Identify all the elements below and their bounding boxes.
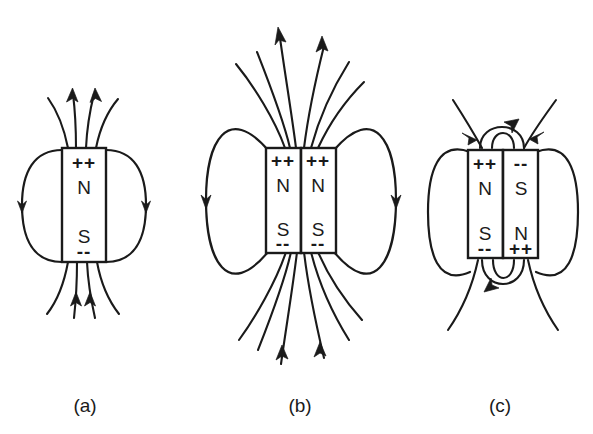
magnet-a-1-top-pole: N — [77, 177, 91, 198]
panel-b-caption: (b) — [288, 395, 311, 416]
field-line-c-top-arc-1 — [480, 127, 524, 148]
panel-b: ++ N S -- ++ N S -- (b) — [201, 27, 401, 416]
magnet-b-2-top-pole: N — [311, 175, 325, 196]
arrowhead-a-top-1 — [67, 88, 79, 102]
panel-c-caption: (c) — [489, 395, 511, 416]
panel-c: ++ N S -- -- S N ++ (c) — [428, 100, 578, 416]
field-loop-left-a — [22, 150, 62, 262]
magnet-a-1-top-charge: ++ — [72, 152, 96, 173]
magnetic-field-figure: ++ N S -- (a) — [0, 0, 593, 434]
arrowhead-b-bot-2 — [314, 342, 326, 357]
field-line-a-top-2 — [73, 94, 76, 148]
magnet-c-2-top-pole: S — [515, 178, 528, 199]
field-loop-left-b — [206, 129, 268, 274]
arrowhead-a-bot-2 — [85, 292, 96, 306]
field-line-a-top-4 — [96, 99, 118, 148]
arrowhead-c-bot-arc — [484, 278, 499, 292]
field-line-a-top-1 — [48, 98, 68, 148]
magnet-c-1-top-pole: N — [478, 178, 492, 199]
field-line-c-bot-left-long — [448, 260, 478, 330]
field-line-a-bot-3 — [87, 262, 95, 318]
arrowhead-c-top-right — [529, 132, 544, 144]
panel-a: ++ N S -- (a) — [18, 88, 151, 416]
magnet-b-1-bottom-charge: -- — [276, 233, 291, 254]
magnet-b-1-top-pole: N — [276, 175, 290, 196]
magnet-b-1-top-charge: ++ — [271, 150, 295, 171]
arrowhead-a-top-2 — [90, 88, 102, 103]
magnet-a-1-bottom-charge: -- — [77, 241, 92, 262]
field-line-b-bot-3 — [281, 252, 297, 364]
field-line-b-top-3 — [280, 38, 296, 148]
magnet-c-2-top-charge: -- — [514, 153, 529, 174]
magnet-c-1-bottom-charge: -- — [478, 238, 493, 259]
figure-root: ++ N S -- (a) — [0, 0, 593, 434]
field-line-b-top-6 — [318, 82, 364, 148]
field-line-b-bot-6 — [318, 252, 362, 320]
field-line-c-bot-right-long — [528, 260, 558, 330]
magnet-b-2-bottom-charge: -- — [311, 233, 326, 254]
field-line-c-bot-arc-2 — [493, 260, 514, 278]
field-line-b-top-4 — [304, 46, 324, 148]
magnet-c-1-top-charge: ++ — [473, 153, 497, 174]
magnet-c-2-bottom-charge: ++ — [509, 238, 533, 259]
field-line-a-bot-4 — [97, 262, 119, 314]
field-loop-right-b — [334, 129, 396, 274]
field-line-c-top-right-long — [524, 100, 556, 148]
field-loop-right-a — [106, 150, 146, 262]
panel-a-caption: (a) — [73, 395, 96, 416]
field-line-c-top-left-long — [453, 100, 482, 148]
field-loop-left-c — [428, 149, 470, 275]
field-line-b-bot-4 — [304, 252, 324, 358]
arrowhead-b-top-2 — [316, 36, 328, 52]
field-line-c-top-arc-2 — [492, 133, 514, 148]
field-line-c-bot-arc-1 — [482, 260, 524, 284]
field-line-a-bot-2 — [74, 262, 77, 318]
field-loop-right-c — [536, 149, 578, 275]
magnet-b-2-top-charge: ++ — [306, 150, 330, 171]
field-line-a-bot-1 — [47, 262, 68, 314]
